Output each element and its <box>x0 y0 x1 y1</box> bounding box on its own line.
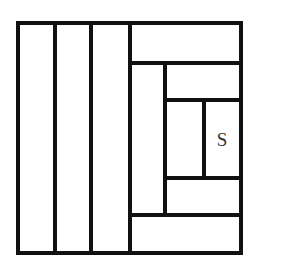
diagram-labels: S <box>217 129 228 150</box>
diagram-lines <box>18 23 241 253</box>
s-label: S <box>217 129 228 150</box>
quilt-block-diagram: S <box>0 0 281 272</box>
